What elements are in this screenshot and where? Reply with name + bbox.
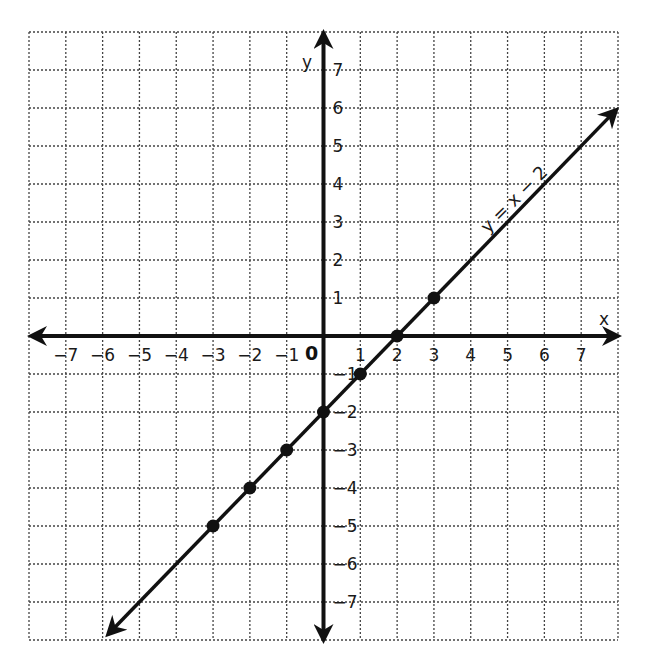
data-point [354, 368, 367, 381]
y-tick-label: −7 [333, 592, 358, 612]
x-tick-label: −2 [237, 345, 262, 365]
x-tick-label: 6 [539, 345, 550, 365]
origin-label: 0 [305, 342, 318, 364]
x-tick-label: −3 [201, 345, 226, 365]
y-tick-label: 7 [333, 60, 344, 80]
y-tick-label: −5 [333, 516, 358, 536]
x-tick-label: 5 [502, 345, 513, 365]
y-tick-label: 1 [333, 288, 344, 308]
x-tick-label: 7 [576, 345, 587, 365]
y-tick-label: 3 [333, 212, 344, 232]
data-point [207, 520, 220, 533]
x-tick-label: 4 [465, 345, 476, 365]
axes [31, 33, 618, 640]
x-tick-label: 2 [392, 345, 403, 365]
coordinate-plane-chart: −7−6−5−4−3−2−11234567−7−6−5−4−3−2−112345… [0, 0, 646, 667]
y-tick-label: 2 [333, 250, 344, 270]
y-tick-label: −2 [333, 402, 358, 422]
y-tick-label: 5 [333, 136, 344, 156]
x-tick-label: −4 [164, 345, 189, 365]
y-tick-label: 6 [333, 98, 344, 118]
x-tick-label: −5 [127, 345, 152, 365]
x-tick-label: 1 [355, 345, 366, 365]
x-tick-label: 3 [429, 345, 440, 365]
data-point [317, 406, 330, 419]
data-point [280, 444, 293, 457]
equation-label: y = x − 2 [476, 161, 552, 237]
y-axis-label: y [302, 52, 312, 72]
x-tick-label: −6 [90, 345, 115, 365]
data-series [108, 110, 616, 634]
data-point [243, 482, 256, 495]
y-tick-label: 4 [333, 174, 344, 194]
x-tick-label: −1 [274, 345, 299, 365]
x-axis-label: x [599, 309, 609, 329]
y-tick-label: −4 [333, 478, 358, 498]
x-tick-label: −7 [53, 345, 78, 365]
axis-labels: y x 0 y = x − 2 [302, 52, 609, 364]
data-point [391, 330, 404, 343]
data-point [427, 292, 440, 305]
y-tick-label: −3 [333, 440, 358, 460]
y-tick-label: −6 [333, 554, 358, 574]
